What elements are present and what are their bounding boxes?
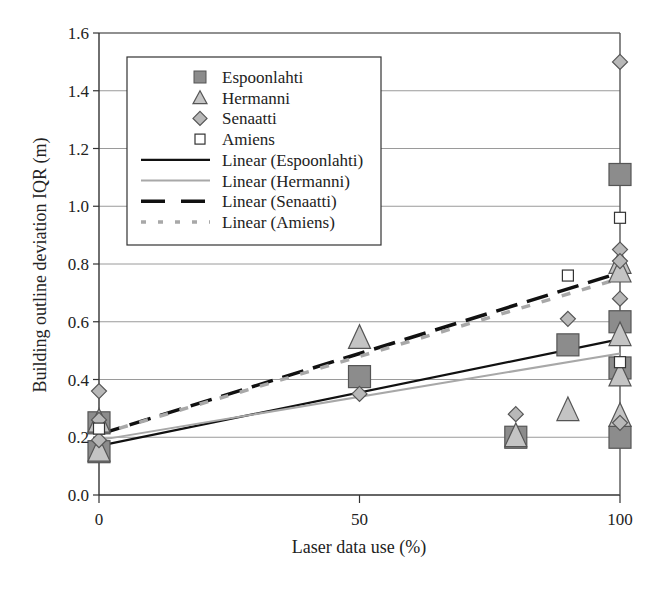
y-tick-label: 1.2 — [68, 140, 89, 159]
triangle-marker — [349, 325, 371, 349]
y-tick-label: 1.4 — [68, 82, 90, 101]
trendline-linear-senaatti — [99, 273, 620, 435]
open-square-marker — [562, 270, 573, 281]
x-tick-label: 0 — [95, 510, 104, 529]
x-axis-title: Laser data use (%) — [292, 537, 426, 558]
square-marker — [557, 334, 579, 356]
y-tick-label: 0.2 — [68, 428, 89, 447]
open-square-marker — [615, 212, 626, 223]
diamond-marker — [92, 384, 107, 399]
scatter-chart: 0.00.20.40.60.81.01.21.41.6 050100 Laser… — [0, 0, 664, 589]
legend-label: Linear (Espoonlahti) — [222, 151, 363, 170]
legend-label: Senaatti — [222, 109, 277, 128]
triangle-marker — [557, 397, 579, 421]
y-tick-label: 0.0 — [68, 486, 89, 505]
y-tick-label: 0.4 — [68, 371, 90, 390]
diamond-marker — [508, 407, 523, 422]
legend-label: Linear (Senaatti) — [222, 192, 337, 211]
trendlines — [99, 273, 620, 446]
diamond-marker — [560, 311, 575, 326]
legend-label: Linear (Amiens) — [222, 213, 335, 232]
legend: EspoonlahtiHermanniSenaattiAmiensLinear … — [127, 57, 381, 245]
y-axis-title: Building outline deviation IQR (m) — [30, 138, 51, 393]
legend-label: Amiens — [222, 130, 275, 149]
diamond-marker — [352, 386, 367, 401]
diamond-marker — [613, 54, 628, 69]
open-square-icon — [195, 134, 205, 144]
diamond-marker — [613, 291, 628, 306]
y-tick-labels: 0.00.20.40.60.81.01.21.41.6 — [68, 24, 90, 505]
open-square-marker — [615, 357, 626, 368]
x-tick-labels: 050100 — [95, 510, 633, 529]
x-tick-label: 50 — [351, 510, 368, 529]
legend-label: Linear (Hermanni) — [222, 172, 350, 191]
square-icon — [194, 71, 206, 83]
open-square-marker — [94, 423, 105, 434]
y-tick-label: 0.6 — [68, 313, 89, 332]
square-marker — [349, 366, 371, 388]
y-tick-label: 1.0 — [68, 197, 89, 216]
legend-label: Hermanni — [222, 89, 290, 108]
y-tick-label: 0.8 — [68, 255, 89, 274]
square-marker — [609, 163, 631, 185]
y-tick-label: 1.6 — [68, 24, 89, 43]
legend-label: Espoonlahti — [222, 68, 303, 87]
x-tick-label: 100 — [607, 510, 633, 529]
